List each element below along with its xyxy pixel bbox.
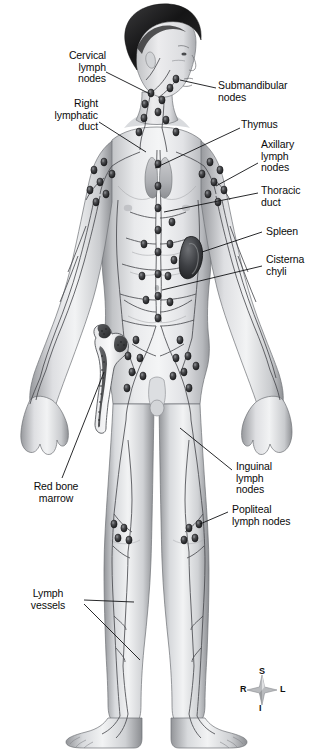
lymphatic-system-figure: Cervical lymph nodes Right lymphatic duc… <box>0 0 314 749</box>
compass-inferior-label: I <box>259 703 262 713</box>
label-inguinal-lymph-nodes: Inguinal lymph nodes <box>236 461 312 496</box>
label-cervical-lymph-nodes: Cervical lymph nodes <box>18 50 106 85</box>
label-popliteal-lymph-nodes: Popliteal lymph nodes <box>232 504 314 527</box>
compass-right-label: R <box>240 684 247 694</box>
label-lymph-vessels: Lymph vessels <box>14 588 82 611</box>
label-thoracic-duct: Thoracic duct <box>261 185 313 208</box>
label-red-bone-marrow: Red bone marrow <box>10 481 102 504</box>
compass-left-label: L <box>280 684 286 694</box>
label-right-lymphatic-duct: Right lymphatic duct <box>6 98 98 133</box>
label-spleen: Spleen <box>266 226 314 238</box>
compass-superior-label: S <box>259 666 265 676</box>
label-axillary-lymph-nodes: Axillary lymph nodes <box>261 139 313 174</box>
label-cisterna-chyli: Cisterna chyli <box>266 254 314 277</box>
label-submandibular-nodes: Submandibular nodes <box>218 80 312 103</box>
label-thymus: Thymus <box>241 119 311 131</box>
